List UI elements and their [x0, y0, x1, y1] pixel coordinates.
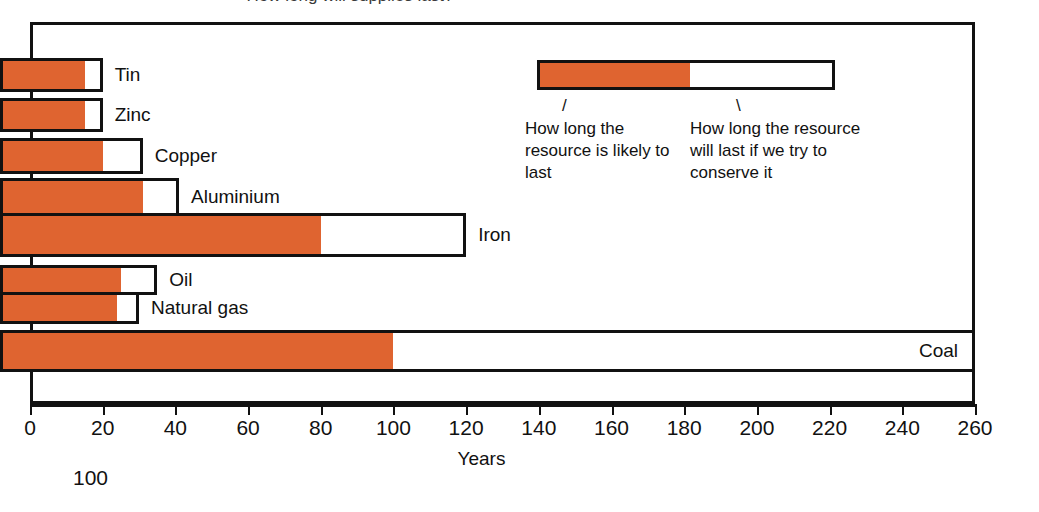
bar-coal: Coal — [0, 330, 975, 372]
x-tick-label: 160 — [594, 416, 629, 440]
x-tick — [902, 404, 904, 415]
x-tick — [175, 404, 177, 415]
resource-depletion-chart: How long will supplies last? TinZincCopp… — [0, 0, 1039, 512]
x-tick — [248, 404, 250, 415]
x-tick-label: 240 — [885, 416, 920, 440]
x-tick-label: 20 — [91, 416, 114, 440]
x-tick-label: 100 — [376, 416, 411, 440]
x-tick — [30, 404, 32, 415]
x-tick — [393, 404, 395, 415]
x-tick-label: 200 — [739, 416, 774, 440]
bar-label: Copper — [155, 145, 217, 167]
legend-sample-bar — [537, 60, 835, 90]
bar-label: Aluminium — [191, 186, 280, 208]
chart-title-clipped: How long will supplies last? — [150, 0, 550, 6]
x-tick-label: 60 — [236, 416, 259, 440]
bar-fill-likely — [3, 101, 85, 129]
bar-fill-likely — [3, 181, 143, 213]
x-tick-label: 120 — [449, 416, 484, 440]
page-number: 100 — [73, 466, 108, 490]
bar-label: Iron — [478, 224, 511, 246]
bar-fill-likely — [3, 333, 393, 369]
bar-fill-likely — [3, 216, 321, 254]
legend-leader-left: / — [562, 97, 567, 114]
legend-caption-likely: How long the resource is likely to last — [525, 118, 685, 184]
x-tick — [539, 404, 541, 415]
bar-aluminium — [0, 178, 179, 216]
x-tick — [466, 404, 468, 415]
x-tick-label: 180 — [667, 416, 702, 440]
x-tick — [684, 404, 686, 415]
bar-fill-likely — [3, 295, 117, 321]
x-axis-title: Years — [0, 448, 1039, 470]
x-tick-label: 140 — [521, 416, 556, 440]
legend-sample-fill — [540, 63, 690, 87]
bar-label: Coal — [919, 340, 958, 362]
bar-fill-likely — [3, 268, 121, 292]
bar-copper — [0, 138, 143, 174]
bar-zinc — [0, 98, 103, 132]
bar-label: Tin — [115, 64, 141, 86]
x-tick — [103, 404, 105, 415]
bar-oil — [0, 265, 157, 295]
x-axis-line — [30, 404, 976, 407]
bar-label: Oil — [169, 269, 192, 291]
bar-iron — [0, 213, 466, 257]
x-tick-label: 40 — [164, 416, 187, 440]
x-tick-label: 260 — [957, 416, 992, 440]
x-tick — [830, 404, 832, 415]
x-tick-label: 220 — [812, 416, 847, 440]
x-tick — [612, 404, 614, 415]
bar-label: Zinc — [115, 104, 151, 126]
x-tick-label: 0 — [24, 416, 36, 440]
x-tick — [757, 404, 759, 415]
bar-tin — [0, 58, 103, 92]
bar-fill-likely — [3, 141, 103, 171]
x-tick — [321, 404, 323, 415]
bar-label: Natural gas — [151, 297, 248, 319]
legend-leader-right: \ — [736, 97, 741, 114]
bar-fill-likely — [3, 61, 85, 89]
x-tick-label: 80 — [309, 416, 332, 440]
x-tick — [975, 404, 977, 415]
x-axis-title-text: Years — [458, 448, 506, 469]
bar-natural-gas — [0, 292, 139, 324]
legend-caption-conserved: How long the resource will last if we tr… — [690, 118, 865, 184]
